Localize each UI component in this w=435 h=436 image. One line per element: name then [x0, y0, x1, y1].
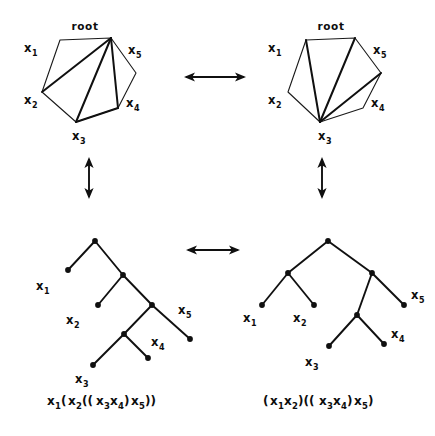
arrow-right-vertical — [317, 157, 326, 199]
svg-text:2: 2 — [276, 101, 282, 110]
tree-right-node-root — [325, 238, 331, 244]
hexagon-left-label-x4: x 4 — [126, 96, 140, 113]
hexagon-left-label-x2: x 2 — [24, 93, 38, 110]
hexagon-right-label-x5: x 5 — [373, 43, 387, 60]
hexagon-left-root-label: root — [71, 20, 98, 32]
formula-left: x 1 ( x 2 (( x 3 x 4 ) x 5 )) — [47, 394, 156, 411]
svg-text:x: x — [24, 93, 32, 107]
svg-text:x: x — [293, 311, 301, 325]
svg-text:4: 4 — [379, 104, 385, 113]
svg-text:x: x — [391, 327, 399, 341]
tree-right-leaf-x2 — [311, 302, 317, 308]
svg-text:)): )) — [145, 394, 156, 408]
svg-text:((: (( — [82, 394, 93, 408]
tree-right-leaf-x3 — [326, 343, 332, 349]
hexagon-right-diagonal-2 — [320, 38, 355, 122]
hexagon-left-diagonal-4 — [76, 108, 118, 122]
tree-right-edge-right-x5 — [372, 273, 404, 305]
tree-left-edge-root-n2 — [95, 241, 123, 275]
tree-left-leaf-x5 — [187, 336, 193, 342]
svg-text:): ) — [368, 394, 373, 408]
svg-text:x: x — [268, 93, 276, 107]
svg-text:x: x — [268, 41, 276, 55]
hexagon-left-label-x3: x 3 — [72, 129, 86, 146]
svg-text:x: x — [128, 43, 136, 57]
tree-left-node-root — [92, 238, 98, 244]
tree-left-leaf-x4 — [145, 355, 151, 361]
svg-text:x: x — [373, 43, 381, 57]
svg-text:2: 2 — [301, 319, 307, 328]
svg-text:x: x — [305, 355, 313, 369]
tree-left-label-x4: x 4 — [151, 335, 165, 352]
hexagon-left: root x 1 x 2 x 3 x 4 x 5 — [24, 20, 142, 146]
svg-text:1: 1 — [276, 49, 282, 58]
svg-text:x: x — [318, 129, 326, 143]
tree-right-edge-right-n4 — [357, 273, 372, 315]
svg-text:x: x — [270, 394, 278, 408]
hexagon-right-label-x4: x 4 — [371, 96, 385, 113]
tree-right-edge-n4-x4 — [357, 315, 384, 344]
tree-right-edge-left-x2 — [288, 273, 314, 305]
tree-left-leaf-x3 — [90, 362, 96, 368]
tree-right-node-internal-left — [285, 270, 291, 276]
svg-text:3: 3 — [313, 363, 319, 372]
svg-text:x: x — [131, 394, 139, 408]
svg-text:)((: )(( — [298, 394, 314, 408]
svg-text:5: 5 — [186, 311, 192, 320]
svg-text:1: 1 — [44, 287, 50, 296]
svg-text:x: x — [75, 372, 83, 386]
svg-text:x: x — [96, 394, 104, 408]
arrow-top-horizontal — [184, 72, 246, 81]
hexagon-right-label-x1: x 1 — [268, 41, 282, 58]
hexagon-left-diagonal-3 — [111, 38, 118, 108]
svg-text:x: x — [371, 96, 379, 110]
hexagon-left-label-x5: x 5 — [128, 43, 142, 60]
svg-text:x: x — [319, 394, 327, 408]
svg-text:): ) — [124, 394, 129, 408]
svg-text:): ) — [347, 394, 352, 408]
tree-left-node-internal-3 — [149, 302, 155, 308]
svg-text:2: 2 — [32, 101, 38, 110]
arrow-left-vertical — [84, 157, 93, 199]
svg-text:x: x — [243, 311, 251, 325]
tree-right-leaf-x5 — [401, 302, 407, 308]
tree-right-label-x1: x 1 — [243, 311, 257, 328]
tree-right-edge-root-right — [328, 241, 372, 273]
tree-left-edge-n4-x3 — [93, 334, 124, 365]
tree-right-leaf-x1 — [259, 302, 265, 308]
tree-right-label-x2: x 2 — [293, 311, 307, 328]
tree-right-edge-left-x1 — [262, 273, 288, 305]
tree-left-node-internal-2 — [120, 272, 126, 278]
tree-left-leaf-x1 — [65, 267, 71, 273]
tree-left-label-x1: x 1 — [36, 279, 50, 296]
tree-right-edge-root-left — [288, 241, 328, 273]
svg-text:x: x — [151, 335, 159, 349]
tree-left-label-x3: x 3 — [75, 372, 89, 389]
svg-text:x: x — [68, 394, 76, 408]
svg-text:(: ( — [263, 394, 268, 408]
svg-text:x: x — [24, 41, 32, 55]
svg-text:4: 4 — [159, 343, 165, 352]
svg-text:2: 2 — [74, 321, 80, 330]
hexagon-right-diagonal-1 — [306, 40, 320, 122]
svg-text:5: 5 — [419, 296, 425, 305]
hexagon-right: root x 1 x 2 x 3 x 4 x 5 — [268, 20, 387, 146]
tree-left-edge-root-x1 — [68, 241, 95, 270]
arrow-bottom-horizontal — [186, 245, 240, 254]
hexagon-right-label-x3: x 3 — [318, 129, 332, 146]
svg-text:1: 1 — [32, 49, 38, 58]
tree-right-label-x5: x 5 — [411, 288, 425, 305]
svg-text:x: x — [110, 394, 118, 408]
svg-text:5: 5 — [381, 51, 387, 60]
tree-right-node-internal-right — [369, 270, 375, 276]
svg-text:x: x — [284, 394, 292, 408]
figure-container: root x 1 x 2 x 3 x 4 x 5 root x — [0, 0, 435, 436]
svg-text:(: ( — [61, 394, 66, 408]
tree-left-edge-n4-x4 — [124, 334, 148, 358]
tree-left: x 1 x 2 x 3 x 4 x 5 — [36, 238, 193, 389]
svg-text:x: x — [36, 279, 44, 293]
tree-left-edge-n2-x2 — [98, 275, 123, 305]
svg-text:x: x — [47, 394, 55, 408]
svg-text:x: x — [72, 129, 80, 143]
tree-right-label-x3: x 3 — [305, 355, 319, 372]
